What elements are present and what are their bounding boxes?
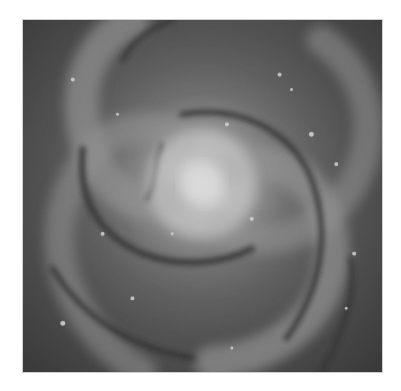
galaxy-illustration	[23, 20, 382, 372]
galaxy-image	[22, 19, 383, 373]
